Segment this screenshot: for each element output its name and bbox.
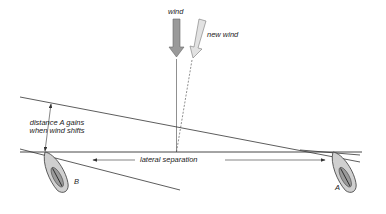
boat-b-icon: [38, 148, 73, 195]
new-wind-direction-line: [177, 60, 193, 152]
new-wind-label: new wind: [207, 31, 238, 39]
lateral-separation-label: lateral separation: [140, 156, 198, 164]
wind-label: wind: [168, 8, 183, 16]
boat-b-label: B: [74, 178, 79, 186]
distance-gain-label-line2: when wind shifts: [22, 127, 92, 135]
wind-shift-diagram: wind new wind distance A gains when wind…: [0, 0, 386, 214]
distance-gain-label: distance A gains when wind shifts: [22, 119, 92, 135]
wind-arrow-icon: [169, 19, 184, 57]
boat-a-label: A: [335, 184, 340, 192]
diagram-graphics: [0, 0, 386, 214]
boat-a-icon: [326, 148, 361, 195]
new-wind-arrow-icon: [190, 19, 206, 58]
